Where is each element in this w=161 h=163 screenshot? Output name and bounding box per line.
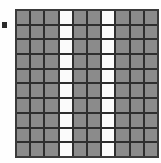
grid-cell — [45, 70, 57, 83]
grid-cell — [102, 84, 114, 97]
grid-cell — [17, 40, 29, 53]
grid-cell — [45, 40, 57, 53]
grid-cell — [116, 40, 128, 53]
grid-cell — [102, 26, 114, 39]
grid-cell — [17, 84, 29, 97]
grid-cell — [31, 11, 43, 24]
figure-canvas — [0, 0, 161, 163]
grid-cell — [45, 143, 57, 156]
grid-cell — [31, 129, 43, 142]
grid-cell — [145, 99, 157, 112]
grid-cell — [102, 114, 114, 127]
grid-cell — [17, 143, 29, 156]
grid-cell — [17, 70, 29, 83]
grid-cell — [102, 99, 114, 112]
grid-cell — [60, 11, 72, 24]
grid-cell — [17, 11, 29, 24]
grid-cell — [131, 40, 143, 53]
grid-cell — [60, 143, 72, 156]
grid-cell — [145, 114, 157, 127]
grid-cell — [74, 26, 86, 39]
grid-cell — [31, 99, 43, 112]
grid-cell — [31, 84, 43, 97]
grid-cell — [74, 99, 86, 112]
grid-cell — [116, 129, 128, 142]
grid-cell — [17, 55, 29, 68]
grid-cell — [31, 40, 43, 53]
grid-cell — [17, 129, 29, 142]
grid-cell — [145, 143, 157, 156]
grid-cell — [74, 11, 86, 24]
grid-cell — [74, 84, 86, 97]
grid-cell — [31, 70, 43, 83]
grid-cell — [45, 114, 57, 127]
grid-cell — [74, 40, 86, 53]
grid-cell — [17, 114, 29, 127]
grid-cell — [74, 143, 86, 156]
grid-cell — [102, 55, 114, 68]
grid-cell — [88, 143, 100, 156]
grid-cell — [116, 26, 128, 39]
grid-cell — [31, 114, 43, 127]
grid-cell — [131, 114, 143, 127]
grid-cell — [17, 26, 29, 39]
grid-cell — [102, 11, 114, 24]
grid-cell — [88, 11, 100, 24]
grid-cell — [116, 84, 128, 97]
grid-cell — [145, 70, 157, 83]
grid-cell — [102, 70, 114, 83]
cell-grid — [17, 11, 157, 156]
grid-cell — [145, 129, 157, 142]
grid-cell — [88, 114, 100, 127]
grid-cell — [60, 129, 72, 142]
grid-cell — [116, 70, 128, 83]
grid-cell — [116, 55, 128, 68]
grid-cell — [131, 129, 143, 142]
grid-cell — [131, 143, 143, 156]
grid-cell — [131, 11, 143, 24]
grid-cell — [60, 70, 72, 83]
grid-cell — [145, 26, 157, 39]
grid-cell — [17, 99, 29, 112]
grid-cell — [131, 84, 143, 97]
grid-cell — [88, 99, 100, 112]
grid-cell — [88, 129, 100, 142]
grid-cell — [45, 99, 57, 112]
grid-cell — [74, 70, 86, 83]
grid-cell — [45, 84, 57, 97]
grid-cell — [60, 99, 72, 112]
grid-cell — [45, 55, 57, 68]
grid-cell — [45, 11, 57, 24]
grid-cell — [60, 114, 72, 127]
grid-cell — [45, 26, 57, 39]
grid-cell — [102, 143, 114, 156]
grid-cell — [131, 26, 143, 39]
grid-cell — [31, 55, 43, 68]
grid-cell — [116, 143, 128, 156]
grid-cell — [45, 129, 57, 142]
grid-cell — [102, 40, 114, 53]
grid-cell — [74, 114, 86, 127]
grid-cell — [116, 11, 128, 24]
grid-cell — [102, 129, 114, 142]
grid-cell — [88, 40, 100, 53]
grid-cell — [88, 26, 100, 39]
grid-cell — [145, 55, 157, 68]
grid-cell — [145, 84, 157, 97]
grid-cell — [88, 84, 100, 97]
grid-cell — [74, 129, 86, 142]
grid-cell — [145, 40, 157, 53]
grid-cell — [60, 26, 72, 39]
grid-cell — [60, 84, 72, 97]
grid-cell — [60, 55, 72, 68]
grid-cell — [60, 40, 72, 53]
grid-cell — [116, 99, 128, 112]
grid-cell — [116, 114, 128, 127]
grid-cell — [31, 143, 43, 156]
grid-cell — [74, 55, 86, 68]
left-margin-bullet-icon — [2, 22, 7, 28]
grid-cell — [131, 55, 143, 68]
grid-cell — [131, 70, 143, 83]
grid-cell — [131, 99, 143, 112]
grid-cell — [88, 55, 100, 68]
